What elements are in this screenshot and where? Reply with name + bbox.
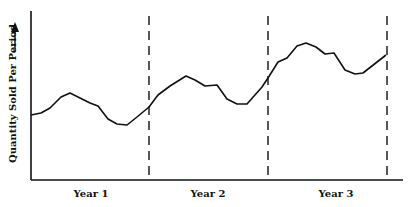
x-label-year3: Year 3 bbox=[306, 188, 366, 199]
x-label-year1: Year 1 bbox=[61, 188, 121, 199]
y-axis-label: Quantity Sold Per Period bbox=[7, 24, 18, 164]
x-label-year2: Year 2 bbox=[178, 188, 238, 199]
chart-canvas bbox=[0, 0, 410, 207]
sales-line bbox=[31, 43, 386, 125]
